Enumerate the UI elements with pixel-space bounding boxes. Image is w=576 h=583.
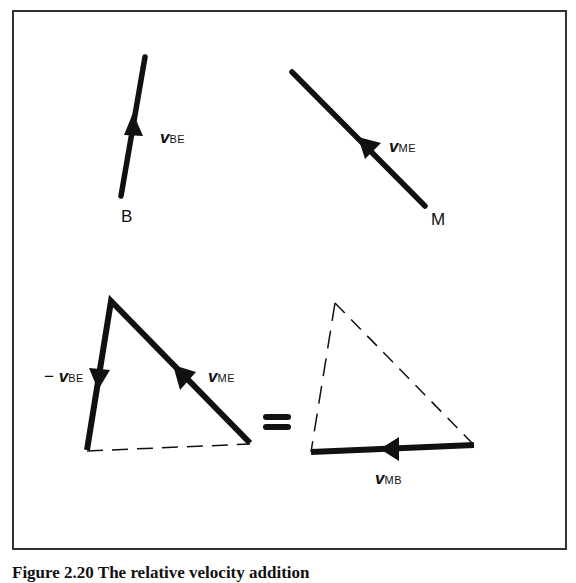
vector-subscript: ME xyxy=(398,142,416,154)
vector-subscript: BE xyxy=(169,133,185,145)
arrowhead-up-icon xyxy=(124,113,143,136)
vector-subscript: MB xyxy=(384,474,402,486)
arrowhead-left-icon xyxy=(380,437,399,461)
label-vmb: vMB xyxy=(375,469,402,489)
vector-subscript: ME xyxy=(217,372,235,384)
equals-sign xyxy=(263,414,291,430)
label-neg-vbe: − vBE xyxy=(44,367,84,387)
point-b-label: B xyxy=(121,207,132,227)
vector-symbol: v xyxy=(59,367,68,386)
vector-subscript: BE xyxy=(68,372,84,384)
figure-caption: Figure 2.20 The relative velocity additi… xyxy=(12,563,309,583)
label-vme-triangle: vME xyxy=(208,367,235,387)
arrowhead-down-icon xyxy=(89,368,110,390)
vector-vbe xyxy=(121,57,145,196)
point-m-label: M xyxy=(431,210,445,230)
label-vbe: vBE xyxy=(160,128,185,148)
triangle-right xyxy=(311,303,474,461)
minus-sign: − xyxy=(44,367,54,386)
label-vme: vME xyxy=(389,137,416,157)
dashed-side xyxy=(87,444,250,451)
